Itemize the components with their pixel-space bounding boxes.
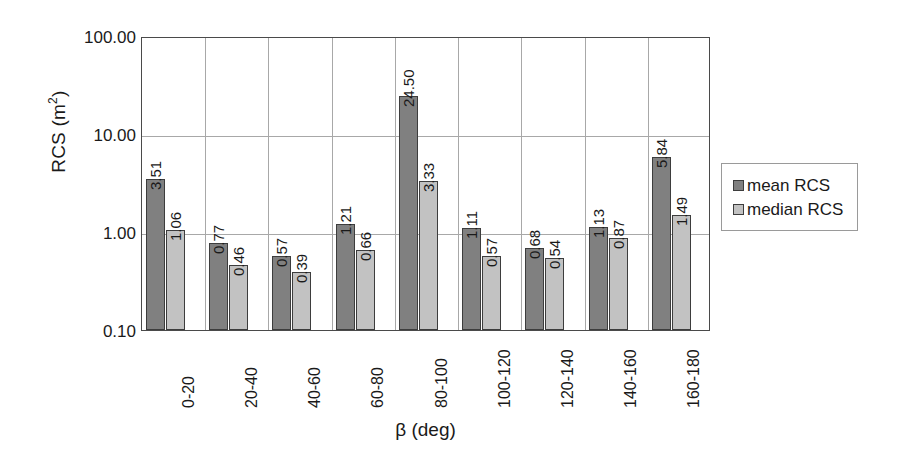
legend-swatch: [733, 180, 744, 191]
bar-value-label: 0.77: [211, 225, 226, 254]
bar-mean: [209, 243, 228, 330]
y-axis-tick-label: 0.10: [40, 323, 136, 340]
bar-median: [672, 215, 691, 330]
bar-value-label: 5.84: [654, 139, 669, 168]
y-axis-tick-label: 10.00: [40, 127, 136, 144]
legend-label: median RCS: [747, 201, 843, 218]
x-axis-title: β (deg): [141, 419, 710, 441]
bar-median: [609, 238, 628, 330]
x-axis-tick-label: 0-20: [181, 376, 197, 408]
y-axis-tick-labels: 100.0010.001.000.10: [36, 0, 136, 459]
bar-value-label: 1.21: [338, 206, 353, 235]
x-axis-tick-label: 40-60: [307, 367, 323, 408]
vertical-gridline: [521, 38, 522, 330]
bar-value-label: 0.54: [547, 240, 562, 269]
x-axis-tick-label: 120-140: [560, 349, 576, 408]
plot-area: 3.510.770.571.2124.501.110.681.135.841.0…: [141, 37, 710, 331]
x-axis-tick-label: 140-160: [623, 349, 639, 408]
bar-median: [356, 250, 375, 330]
bar-value-label: 24.50: [401, 69, 416, 107]
bar-mean: [525, 248, 544, 330]
bar-value-label: 0.68: [527, 230, 542, 259]
vertical-gridline: [458, 38, 459, 330]
vertical-gridline: [332, 38, 333, 330]
bar-mean: [399, 96, 418, 330]
vertical-gridline: [585, 38, 586, 330]
bar-value-label: 0.66: [358, 231, 373, 260]
bar-mean: [336, 224, 355, 330]
bar-median: [166, 230, 185, 330]
bar-value-label: 1.13: [591, 209, 606, 238]
x-axis-tick-label: 100-120: [497, 349, 513, 408]
bar-value-label: 0.87: [611, 220, 626, 249]
bar-median: [482, 256, 501, 330]
x-axis-tick-label: 160-180: [686, 349, 702, 408]
vertical-gridline: [268, 38, 269, 330]
horizontal-gridline: [142, 136, 709, 137]
bar-value-label: 0.57: [484, 238, 499, 267]
rcs-bar-chart: RCS (m2) 100.0010.001.000.10 3.510.770.5…: [0, 0, 912, 459]
vertical-gridline: [395, 38, 396, 330]
bar-value-label: 1.11: [464, 210, 479, 238]
legend-item: median RCS: [733, 197, 843, 221]
legend: mean RCSmedian RCS: [721, 163, 858, 231]
bar-mean: [652, 157, 671, 330]
vertical-gridline: [648, 38, 649, 330]
bar-value-label: 0.46: [231, 247, 246, 276]
x-axis-tick-label: 60-80: [370, 367, 386, 408]
bar-value-label: 1.06: [168, 211, 183, 240]
bar-median: [419, 181, 438, 330]
legend-label: mean RCS: [747, 177, 830, 194]
bar-value-label: 0.57: [274, 238, 289, 267]
bar-value-label: 0.39: [294, 254, 309, 283]
bar-mean: [462, 228, 481, 330]
x-axis-tick-label: 80-100: [434, 358, 450, 408]
y-axis-tick-label: 100.00: [40, 29, 136, 46]
bar-value-label: 3.33: [421, 163, 436, 192]
bar-mean: [589, 227, 608, 330]
vertical-gridline: [205, 38, 206, 330]
bar-mean: [272, 256, 291, 330]
x-axis-tick-label: 20-40: [244, 367, 260, 408]
bar-value-label: 1.49: [674, 197, 689, 226]
legend-swatch: [733, 204, 744, 215]
bar-mean: [146, 179, 165, 330]
bar-value-label: 3.51: [148, 160, 163, 189]
legend-item: mean RCS: [733, 173, 843, 197]
y-axis-tick-label: 1.00: [40, 225, 136, 242]
x-axis-tick-labels: 0-2020-4040-6060-8080-100100-120120-1401…: [141, 336, 710, 416]
